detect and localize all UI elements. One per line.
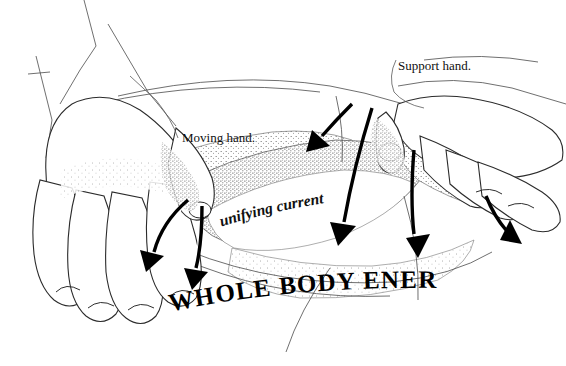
- illustration-svg: Moving hand. Support hand. unifying curr…: [0, 0, 566, 366]
- label-moving-hand: Moving hand.: [182, 130, 255, 145]
- illustration-canvas: Moving hand. Support hand. unifying curr…: [0, 0, 566, 366]
- label-support-hand: Support hand.: [398, 58, 471, 73]
